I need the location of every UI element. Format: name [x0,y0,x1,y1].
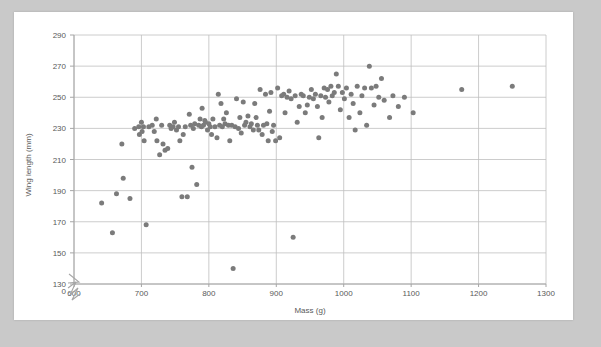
scatter-chart: 6007008009001000110012001300 13015017019… [0,0,601,347]
data-point [277,135,282,140]
data-point [347,115,352,120]
data-point [273,138,278,143]
data-point [357,110,362,115]
data-point [181,132,186,137]
data-point [362,85,367,90]
data-point [369,85,374,90]
data-point [270,129,275,134]
x-tick-label: 1100 [403,289,421,298]
data-point [177,138,182,143]
data-point [212,124,217,129]
data-point [256,127,261,132]
y-axis-ticks: 130150170190210230250270290 [53,31,74,289]
data-point [191,126,196,131]
data-point [161,141,166,146]
data-point [293,93,298,98]
data-point [390,93,395,98]
x-tick-label: 800 [202,289,216,298]
x-tick-label: 1000 [335,289,353,298]
data-point [315,104,320,109]
x-tick-label: 1300 [537,289,555,298]
data-point [379,76,384,81]
data-point [267,109,272,114]
data-point [313,92,318,97]
data-point [291,235,296,240]
data-point [387,115,392,120]
data-point [295,120,300,125]
data-point [287,89,292,94]
data-point [402,95,407,100]
grid-lines [74,35,546,284]
data-point [252,101,257,106]
y-tick-label: 190 [53,187,67,196]
data-point [301,93,306,98]
data-point [344,85,349,90]
data-point [119,141,124,146]
data-point [340,90,345,95]
data-point [218,101,223,106]
x-axis-title: Mass (g) [294,306,325,315]
data-point [311,96,316,101]
data-point [334,71,339,76]
y-tick-label: 230 [53,124,67,133]
data-point [144,222,149,227]
data-point [336,84,341,89]
data-point [255,123,260,128]
y-tick-label: 210 [53,156,67,165]
data-point [224,110,229,115]
data-point [127,196,132,201]
data-point [152,129,157,134]
data-point [275,85,280,90]
data-point [187,112,192,117]
data-point [140,129,145,134]
data-point [249,121,254,126]
data-point [359,93,364,98]
data-point [239,131,244,136]
data-point [309,87,314,92]
data-point [214,135,219,140]
data-point [210,117,215,122]
y-tick-label: 290 [53,31,67,40]
y-tick-label: 150 [53,249,67,258]
data-point [208,124,213,129]
data-point [209,132,214,137]
data-point [326,99,331,104]
data-point [194,182,199,187]
data-point [349,92,354,97]
data-point [121,176,126,181]
data-point [198,117,203,122]
data-point [318,93,323,98]
data-point [396,104,401,109]
data-point [172,120,177,125]
data-point [236,126,241,131]
data-point [221,117,226,122]
y-tick-label: 250 [53,93,67,102]
data-point [154,117,159,122]
data-point [342,96,347,101]
data-point [305,103,310,108]
data-point [332,90,337,95]
data-point [150,123,155,128]
data-point [141,124,146,129]
x-tick-label: 700 [135,289,149,298]
data-point [258,87,263,92]
data-point [227,138,232,143]
data-point [142,138,147,143]
chart-svg: 6007008009001000110012001300 13015017019… [0,0,601,347]
data-point [351,101,356,106]
data-point [139,120,144,125]
data-point [355,84,360,89]
y-tick-label: 170 [53,218,67,227]
data-point [243,120,248,125]
data-point [338,107,343,112]
data-points [99,64,515,271]
data-point [297,104,302,109]
data-point [353,127,358,132]
data-point [183,124,188,129]
data-point [157,152,162,157]
data-point [510,84,515,89]
data-point [154,138,159,143]
data-point [268,90,273,95]
data-point [266,138,271,143]
data-point [263,92,268,97]
